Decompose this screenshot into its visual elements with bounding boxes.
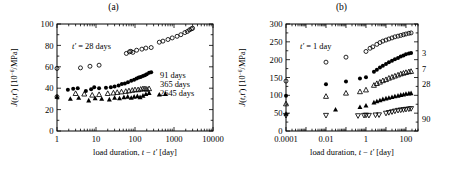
- data-series: [66, 70, 153, 93]
- marker-filled-circle: [358, 77, 362, 81]
- marker-open-circle: [364, 49, 368, 53]
- marker-open-triangle: [90, 92, 95, 97]
- series-label: 28: [422, 80, 430, 89]
- marker-filled-circle: [104, 86, 108, 90]
- marker-open-circle: [170, 36, 174, 40]
- marker-open-circle: [324, 60, 328, 64]
- marker-open-triangle: [105, 91, 110, 96]
- y-tick-label: 50: [274, 108, 283, 118]
- data-series: [55, 90, 168, 102]
- panel-b: (b) 0.00010.011100050100150200250300J(t,…: [228, 0, 455, 182]
- marker-open-circle: [144, 46, 148, 50]
- marker-filled-circle: [109, 85, 113, 89]
- marker-filled-circle: [284, 94, 288, 98]
- marker-open-triangle: [363, 87, 368, 92]
- y-tick-label: 250: [270, 37, 283, 47]
- y-tick-label: 100: [270, 90, 283, 100]
- marker-open-down-triangle: [356, 114, 361, 119]
- y-tick-label: 150: [270, 73, 283, 83]
- figure-container: (a) 110100100010000020406080100J(t,t′) […: [0, 0, 455, 182]
- marker-open-circle: [149, 46, 153, 50]
- marker-open-circle: [166, 38, 170, 42]
- marker-open-triangle: [73, 91, 78, 96]
- marker-filled-circle: [324, 82, 328, 86]
- y-tick-label: 0: [278, 126, 282, 136]
- marker-open-circle: [97, 63, 101, 67]
- marker-open-circle: [183, 31, 187, 35]
- y-axis-label: J(t,t′) [10−6/MPa]: [9, 48, 19, 106]
- y-tick-label: 200: [270, 55, 283, 65]
- x-tick-label: 1000: [165, 134, 182, 144]
- marker-open-triangle: [357, 89, 362, 94]
- x-tick-label: 1: [364, 134, 368, 144]
- x-tick-label: 1: [55, 134, 59, 144]
- marker-open-circle: [78, 66, 82, 70]
- marker-filled-triangle: [117, 96, 122, 101]
- y-axis-label: J(t,t′) [10−6/MPa]: [237, 48, 247, 106]
- marker-filled-triangle: [86, 98, 91, 103]
- legend-label: 91 days: [160, 71, 186, 80]
- y-tick-label: 60: [45, 62, 54, 72]
- marker-open-triangle: [343, 90, 348, 95]
- marker-open-circle: [88, 64, 92, 68]
- series-label: 3: [422, 49, 426, 58]
- marker-filled-circle: [364, 75, 368, 79]
- y-tick-label: 40: [45, 83, 54, 93]
- marker-filled-triangle: [125, 94, 130, 99]
- legend-label: 2645 days: [160, 89, 194, 98]
- marker-open-circle: [161, 39, 165, 43]
- marker-filled-triangle: [112, 95, 117, 100]
- svg-text:J(t,t′) [10−6/MPa]: J(t,t′) [10−6/MPa]: [237, 48, 247, 106]
- marker-open-circle: [179, 33, 183, 37]
- y-tick-label: 300: [270, 19, 283, 29]
- marker-filled-circle: [113, 85, 117, 89]
- panel-a: (a) 110100100010000020406080100J(t,t′) […: [0, 0, 227, 182]
- x-axis-label: load duration, t − t′ [day]: [310, 148, 394, 157]
- y-tick-label: 20: [45, 105, 54, 115]
- y-tick-label: 100: [41, 19, 54, 29]
- legend-label: 365 days: [160, 80, 190, 89]
- marker-filled-circle: [344, 79, 348, 83]
- panel-b-plot: 0.00010.011100050100150200250300J(t,t′) …: [228, 0, 455, 182]
- svg-text:J(t,t′) [10−6/MPa]: J(t,t′) [10−6/MPa]: [9, 48, 19, 106]
- series-label: 7: [422, 65, 426, 74]
- marker-filled-circle: [97, 86, 101, 90]
- marker-open-triangle: [324, 94, 329, 99]
- marker-filled-circle: [149, 70, 153, 74]
- x-axis-label: load duration, t − t′ [day]: [93, 148, 177, 157]
- data-series: [284, 51, 413, 98]
- marker-filled-circle: [409, 51, 413, 55]
- series-label: 90: [422, 115, 430, 124]
- marker-open-triangle: [97, 92, 102, 97]
- y-tick-label: 80: [45, 41, 54, 51]
- marker-open-circle: [135, 48, 139, 52]
- marker-open-down-triangle: [324, 113, 329, 118]
- marker-filled-circle: [92, 85, 96, 89]
- x-tick-label: 0.01: [318, 134, 333, 144]
- marker-filled-triangle: [68, 96, 73, 101]
- plot-frame: [286, 24, 418, 131]
- annotation-t-prime: t′ = 1 day: [300, 42, 332, 51]
- marker-filled-circle: [76, 86, 80, 90]
- annotation-t-prime: t′ = 28 days: [72, 42, 111, 51]
- marker-filled-triangle: [107, 97, 112, 102]
- marker-filled-circle: [66, 88, 70, 92]
- x-tick-label: 100: [129, 134, 142, 144]
- x-tick-label: 10: [92, 134, 101, 144]
- x-tick-label: 10000: [202, 134, 223, 144]
- y-tick-label: 0: [49, 126, 53, 136]
- marker-filled-triangle: [363, 103, 368, 108]
- marker-open-circle: [399, 33, 403, 37]
- data-series: [284, 107, 414, 119]
- marker-filled-triangle: [333, 107, 338, 112]
- marker-open-circle: [140, 47, 144, 51]
- data-series: [284, 69, 414, 106]
- marker-filled-circle: [71, 87, 75, 91]
- panel-a-plot: 110100100010000020406080100J(t,t′) [10−6…: [0, 0, 227, 182]
- x-tick-label: 100: [400, 134, 413, 144]
- marker-filled-triangle: [357, 104, 362, 109]
- marker-open-circle: [344, 55, 348, 59]
